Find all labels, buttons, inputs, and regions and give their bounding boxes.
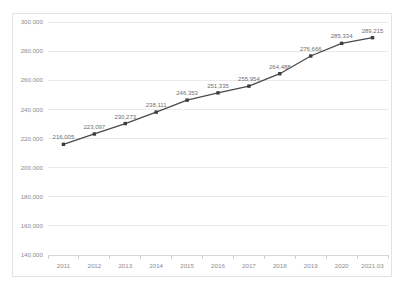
xtick-label: 2016 [211, 262, 225, 269]
ytick-label: 140,000 [21, 251, 44, 258]
xtick-label: 2019 [304, 262, 318, 269]
xtick-label: 2011 [57, 262, 71, 269]
xaxis-ticks-group [48, 255, 388, 259]
series-line [63, 38, 372, 145]
xtick-label: 2018 [273, 262, 287, 269]
data-point-label: 223,097 [84, 124, 106, 130]
data-point-marker [185, 98, 188, 101]
ytick-label: 240,000 [21, 106, 44, 113]
data-point-marker [62, 143, 65, 146]
data-point-label: 246,353 [176, 90, 198, 96]
data-point-label: 230,273 [114, 114, 136, 120]
data-point-marker [216, 91, 219, 94]
chart-canvas: 140,000160,000180,000200,000220,000240,0… [0, 0, 404, 293]
ytick-label: 300,000 [21, 18, 44, 25]
xtick-label: 2014 [149, 262, 163, 269]
data-point-label: 251,335 [207, 83, 229, 89]
data-point-label: 216,005 [53, 134, 75, 140]
data-point-marker [278, 72, 281, 75]
data-point-marker [154, 110, 157, 113]
data-point-marker [309, 54, 312, 57]
ytick-label: 180,000 [21, 193, 44, 200]
xtick-label: 2012 [87, 262, 101, 269]
data-point-label: 238,111 [146, 102, 167, 108]
ytick-label: 280,000 [21, 47, 44, 54]
data-point-label: 289,215 [362, 28, 384, 34]
data-point-marker [340, 42, 343, 45]
xtick-label: 2020 [335, 262, 349, 269]
ytick-labels-group: 140,000160,000180,000200,000220,000240,0… [21, 18, 44, 258]
xtick-label: 2021.03 [361, 262, 384, 269]
data-point-label: 285,334 [331, 33, 353, 39]
ytick-label: 200,000 [21, 164, 44, 171]
xtick-label: 2015 [180, 262, 194, 269]
data-point-marker [371, 36, 374, 39]
data-labels-group: 216,005223,097230,273238,111246,353251,3… [53, 28, 384, 141]
data-point-label: 255,954 [238, 76, 260, 82]
series-line-group [63, 38, 372, 145]
data-point-label: 264,488 [269, 64, 291, 70]
data-point-label: 276,666 [300, 46, 322, 52]
data-point-marker [124, 122, 127, 125]
xtick-label: 2017 [242, 262, 256, 269]
ytick-label: 220,000 [21, 135, 44, 142]
chart-screenshot: 140,000160,000180,000200,000220,000240,0… [0, 0, 404, 293]
xtick-labels-group: 2011201220132014201520162017201820192020… [57, 262, 384, 269]
ytick-label: 260,000 [21, 76, 44, 83]
gridlines-group [48, 22, 388, 255]
data-point-marker [93, 132, 96, 135]
data-point-marker [247, 84, 250, 87]
ytick-label: 160,000 [21, 222, 44, 229]
xtick-label: 2013 [118, 262, 132, 269]
